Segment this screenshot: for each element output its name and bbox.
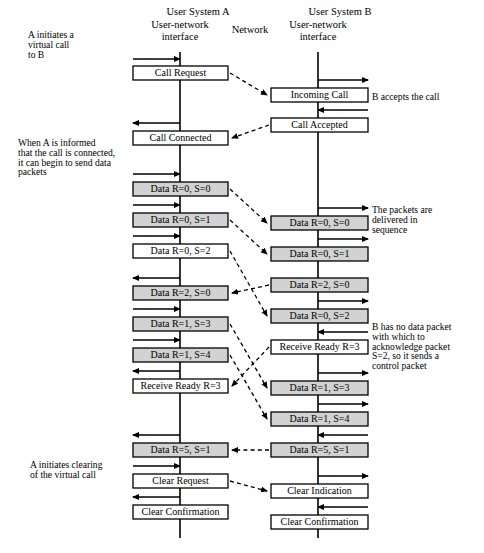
- network-connector-c-clear: [230, 481, 267, 491]
- packet-box-label: Call Connected: [150, 132, 212, 143]
- packet-box-data-r0-s0-b[interactable]: Data R=0, S=0: [271, 216, 368, 230]
- packet-box-data-r0-s2-b[interactable]: Data R=0, S=2: [271, 309, 368, 323]
- diagram-canvas: Call RequestCall ConnectedData R=0, S=0D…: [0, 0, 484, 553]
- packet-box-label: Clear Indication: [287, 485, 352, 496]
- packet-box-data-r1-s3-b[interactable]: Data R=1, S=3: [271, 381, 368, 395]
- network-connector-c-d00: [230, 189, 267, 223]
- packet-box-label: Receive Ready R=3: [140, 380, 220, 391]
- annotation-b-no-data-packet-line5: control packet: [372, 360, 427, 371]
- packet-box-label: Data R=1, S=4: [151, 349, 211, 360]
- packet-box-label: Data R=0, S=2: [151, 245, 211, 256]
- header-interface-a-line2: interface: [162, 31, 199, 42]
- connectors-group: [230, 73, 269, 491]
- packet-box-label: Call Accepted: [291, 119, 347, 130]
- annotations-group: User System AUser-networkinterfaceNetwor…: [18, 6, 452, 480]
- packet-box-label: Data R=0, S=0: [290, 217, 350, 228]
- packet-box-label: Data R=2, S=0: [151, 287, 211, 298]
- packet-box-clear-request[interactable]: Clear Request: [133, 474, 228, 488]
- packet-box-clear-confirmation-a[interactable]: Clear Confirmation: [133, 505, 228, 519]
- packet-box-data-r0-s2-a[interactable]: Data R=0, S=2: [133, 244, 228, 258]
- packet-box-label: Data R=2, S=0: [290, 279, 350, 290]
- annotation-a-initiates-clearing-line2: of the virtual call: [30, 469, 96, 480]
- packet-box-receive-ready-r3-a[interactable]: Receive Ready R=3: [133, 379, 228, 393]
- packet-box-label: Call Request: [155, 67, 207, 78]
- header-interface-a-line1: User-network: [151, 19, 209, 30]
- annotation-when-a-informed-line4: packets: [18, 166, 47, 177]
- network-connector-c-rr3: [232, 347, 269, 386]
- packet-boxes-group: Call RequestCall ConnectedData R=0, S=0D…: [133, 66, 368, 529]
- packet-box-label: Data R=0, S=0: [151, 183, 211, 194]
- packet-box-label: Data R=1, S=4: [290, 413, 350, 424]
- packet-box-call-accepted[interactable]: Call Accepted: [271, 118, 368, 132]
- packet-box-label: Data R=5, S=1: [151, 444, 211, 455]
- sequence-diagram-svg: Call RequestCall ConnectedData R=0, S=0D…: [0, 0, 484, 553]
- network-connector-c-d13: [230, 324, 267, 388]
- annotation-packets-in-sequence-line3: sequence: [372, 224, 407, 235]
- network-connector-c-d20: [232, 285, 269, 293]
- packet-box-label: Data R=5, S=1: [290, 444, 350, 455]
- packet-box-data-r0-s1-b[interactable]: Data R=0, S=1: [271, 247, 368, 261]
- header-system-b: User System B: [309, 6, 372, 17]
- packet-box-label: Data R=0, S=1: [151, 214, 211, 225]
- packet-box-data-r1-s4-a[interactable]: Data R=1, S=4: [133, 348, 228, 362]
- packet-box-incoming-call[interactable]: Incoming Call: [271, 88, 368, 102]
- packet-box-label: Clear Request: [152, 475, 209, 486]
- packet-box-clear-indication[interactable]: Clear Indication: [271, 484, 368, 498]
- packet-box-label: Data R=1, S=3: [151, 318, 211, 329]
- packet-box-clear-confirmation-b[interactable]: Clear Confirmation: [271, 515, 368, 529]
- packet-box-data-r1-s4-b[interactable]: Data R=1, S=4: [271, 412, 368, 426]
- packet-box-data-r0-s0-a[interactable]: Data R=0, S=0: [133, 182, 228, 196]
- packet-box-label: Clear Confirmation: [280, 516, 358, 527]
- packet-box-receive-ready-r3-b[interactable]: Receive Ready R=3: [271, 340, 368, 354]
- packet-box-data-r5-s1-b[interactable]: Data R=5, S=1: [271, 443, 368, 457]
- network-connector-c-call-accepted: [232, 125, 269, 138]
- header-network: Network: [232, 24, 269, 35]
- packet-box-label: Receive Ready R=3: [279, 341, 359, 352]
- network-connector-c-call-request: [230, 73, 267, 95]
- network-connector-c-d01: [230, 220, 267, 254]
- packet-box-label: Clear Confirmation: [141, 506, 219, 517]
- header-interface-b-line2: interface: [300, 31, 337, 42]
- network-connector-c-d14: [230, 355, 267, 419]
- annotation-b-accepts-line1: B accepts the call: [372, 91, 440, 102]
- packet-box-data-r2-s0-b[interactable]: Data R=2, S=0: [271, 278, 368, 292]
- packet-box-data-r5-s1-a[interactable]: Data R=5, S=1: [133, 443, 228, 457]
- packet-box-label: Incoming Call: [291, 89, 349, 100]
- packet-box-label: Data R=0, S=1: [290, 248, 350, 259]
- annotation-a-initiates-line3: to B: [28, 49, 44, 60]
- packet-box-label: Data R=0, S=2: [290, 310, 350, 321]
- packet-box-data-r1-s3-a[interactable]: Data R=1, S=3: [133, 317, 228, 331]
- packet-box-label: Data R=1, S=3: [290, 382, 350, 393]
- packet-box-data-r0-s1-a[interactable]: Data R=0, S=1: [133, 213, 228, 227]
- header-interface-b-line1: User-network: [289, 19, 347, 30]
- packet-box-call-request[interactable]: Call Request: [133, 66, 228, 80]
- header-system-a: User System A: [167, 6, 230, 17]
- packet-box-call-connected[interactable]: Call Connected: [133, 131, 228, 145]
- packet-box-data-r2-s0-a[interactable]: Data R=2, S=0: [133, 286, 228, 300]
- network-connector-c-d02: [230, 251, 267, 316]
